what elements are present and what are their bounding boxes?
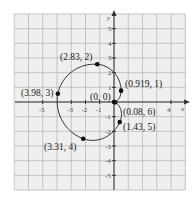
x-axis-arrow-icon: [184, 100, 190, 105]
y-axis-arrow-icon: [112, 10, 117, 16]
x-tick-label: -3: [67, 106, 73, 114]
data-point: [56, 91, 61, 96]
y-tick-label: 3: [108, 54, 112, 62]
polar-plot: -5-3-2-1454321-1-2-3-4-5 x y (0, 0) (0.9…: [0, 0, 195, 200]
label-p2: (2.83, 2): [60, 52, 92, 63]
label-p6: (0.08, 6): [123, 107, 155, 118]
y-tick-label: -3: [105, 143, 111, 151]
x-tick-label: -5: [39, 106, 45, 114]
data-point: [95, 62, 100, 67]
data-point: [81, 136, 86, 141]
x-tick-label: -1: [96, 106, 102, 114]
label-p0: (0, 0): [90, 92, 111, 103]
label-p1: (0.919, 1): [125, 79, 162, 90]
y-tick-label: 5: [108, 25, 112, 33]
data-point: [119, 88, 124, 93]
y-tick-label: 4: [108, 40, 112, 48]
data-point: [117, 120, 122, 125]
y-tick-label: -5: [105, 172, 111, 180]
y-tick-label: 1: [108, 84, 112, 92]
y-tick-label: -1: [105, 113, 111, 121]
label-p4: (3.31, 4): [44, 142, 76, 153]
y-tick-label: -4: [105, 157, 111, 165]
x-tick-label: 4: [167, 106, 171, 114]
label-p5: (1.43, 5): [123, 122, 155, 133]
data-point: [113, 100, 118, 105]
label-p3: (3.98, 3): [21, 88, 53, 99]
x-tick-label: -2: [82, 106, 88, 114]
